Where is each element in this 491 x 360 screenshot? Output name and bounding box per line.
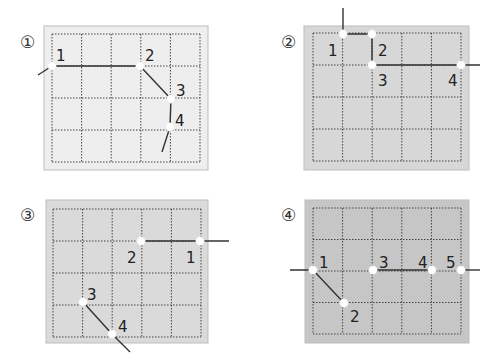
point-label: 4 [418,254,428,272]
point-marker [368,61,376,69]
point-marker [136,62,144,70]
point-label: 4 [448,72,458,90]
point-marker [108,330,116,338]
panel-1-number: ① [20,32,35,52]
point-marker [79,298,87,306]
point-label: 1 [328,42,338,60]
point-marker [457,266,465,274]
point-label: 3 [87,286,97,304]
point-marker [368,30,376,38]
panel-4-number: ④ [281,205,296,225]
point-marker [167,95,175,103]
point-marker [339,30,347,38]
point-marker [196,237,204,245]
point-label: 2 [378,42,388,60]
panel-2-number: ② [281,32,296,52]
panel-2: ② 1234 [281,8,480,170]
point-label: 3 [176,82,186,100]
point-marker [369,266,377,274]
point-marker [309,266,317,274]
point-label: 4 [118,318,128,336]
point-label: 5 [446,254,456,272]
point-marker [48,62,56,70]
point-label: 2 [350,308,360,326]
diagram-stage: ① 1234 ② 1234 ③ 1234 ④ [0,0,491,360]
point-label: 1 [319,254,329,272]
point-label: 2 [127,249,137,267]
point-marker [137,237,145,245]
point-label: 3 [378,72,388,90]
point-marker [166,123,174,131]
point-marker [457,61,465,69]
point-label: 1 [56,47,66,65]
point-label: 3 [379,254,389,272]
point-marker [428,266,436,274]
point-label: 2 [145,47,155,65]
panel-3: ③ 1234 [20,200,229,352]
panel-1: ① 1234 [20,26,208,170]
point-marker [340,299,348,307]
point-label: 1 [186,249,196,267]
panel-3-number: ③ [20,205,35,225]
panel-4: ④ 12345 [281,200,480,343]
point-label: 4 [175,112,185,130]
diagram-canvas: ① 1234 ② 1234 ③ 1234 ④ [0,0,491,360]
